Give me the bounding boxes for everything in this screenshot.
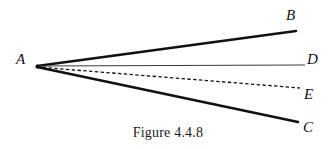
- vertex-A-point: [36, 65, 40, 69]
- geometry-figure: A B D E C Figure 4.4.8: [0, 0, 336, 149]
- ray-AB-line: [37, 31, 296, 66]
- point-label-b: B: [286, 8, 295, 23]
- point-label-a: A: [16, 52, 25, 67]
- ray-AD-line: [37, 65, 305, 66]
- point-label-e: E: [304, 87, 313, 102]
- figure-caption: Figure 4.4.8: [0, 125, 336, 141]
- ray-AE-line: [37, 67, 300, 88]
- point-label-d: D: [307, 52, 318, 67]
- ray-AC-line: [37, 67, 298, 122]
